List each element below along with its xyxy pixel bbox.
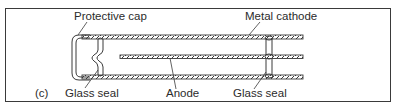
leader-metal-cathode <box>249 22 260 35</box>
protective-cap <box>72 35 90 80</box>
label-anode: Anode <box>166 88 199 100</box>
label-protective-cap: Protective cap <box>74 11 147 23</box>
label-metal-cathode: Metal cathode <box>245 11 317 23</box>
anode-wire <box>120 55 303 59</box>
label-glass-seal-right: Glass seal <box>233 88 287 100</box>
leader-anode <box>170 58 176 89</box>
panel-label: (c) <box>35 88 48 100</box>
label-glass-seal-left: Glass seal <box>65 88 119 100</box>
leader-protective-cap <box>78 22 87 35</box>
